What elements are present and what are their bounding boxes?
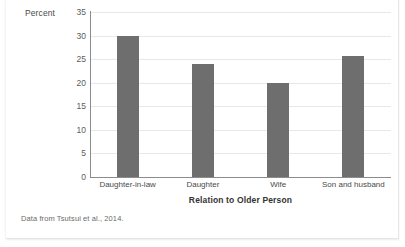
gridline	[90, 12, 391, 13]
y-axis-tick-label: 15	[60, 102, 86, 111]
y-axis-tick-label: 25	[60, 55, 86, 64]
source-divider	[20, 206, 385, 207]
y-axis-title: Percent	[25, 8, 55, 18]
source-note: Data from Tsutsui et al., 2014.	[21, 214, 124, 223]
x-axis-title: Relation to Older Person	[90, 195, 391, 205]
x-axis-category-label: Son and husband	[293, 180, 405, 190]
y-axis-tick-labels: 05101520253035	[58, 0, 86, 200]
y-axis-tick-label: 20	[60, 79, 86, 88]
figure-card: Percent 05101520253035 Relation to Older…	[6, 0, 399, 239]
y-axis-tick-label: 35	[60, 8, 86, 17]
bar	[192, 64, 214, 177]
y-axis-tick-label: 30	[60, 32, 86, 41]
plot-area	[90, 12, 391, 177]
bar	[267, 83, 289, 177]
x-axis-line	[90, 177, 391, 178]
bar	[342, 56, 364, 177]
y-axis-tick-label: 5	[60, 149, 86, 158]
y-axis-tick-label: 10	[60, 126, 86, 135]
y-axis-line	[90, 11, 91, 178]
bar	[117, 36, 139, 177]
